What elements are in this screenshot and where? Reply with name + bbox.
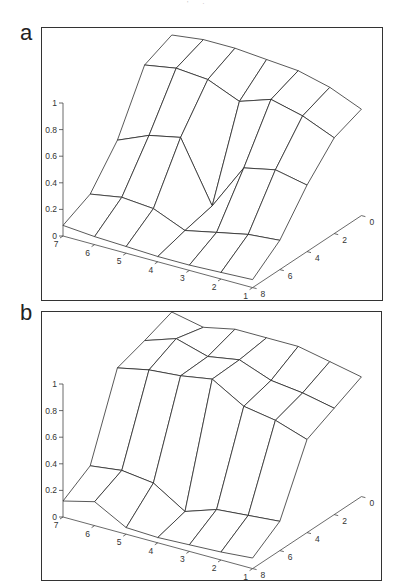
x-tick <box>123 534 126 536</box>
x-tick <box>218 560 221 562</box>
x-tick <box>250 569 253 571</box>
z-tick-label: 0.4 <box>45 178 57 188</box>
y-tick <box>253 569 257 570</box>
y-tick <box>361 497 365 498</box>
y-tick <box>307 533 311 534</box>
x-tick <box>92 526 95 528</box>
y-tick-label: 2 <box>342 516 347 526</box>
z-tick-label: 0.2 <box>45 204 57 214</box>
x-tick <box>186 551 189 553</box>
x-tick <box>218 279 221 281</box>
x-tick-label: 2 <box>212 282 217 292</box>
x-tick-label: 5 <box>117 256 122 266</box>
x-tick-label: 2 <box>212 563 217 573</box>
z-tick-label: 0.8 <box>45 406 57 416</box>
surface-plot-a: 00.20.40.60.81765432102468 <box>45 35 374 301</box>
y-tick <box>307 252 311 253</box>
y-tick-label: 8 <box>261 570 266 580</box>
x-tick-label: 6 <box>85 529 90 539</box>
x-tick-label: 1 <box>243 291 248 301</box>
x-tick-label: 6 <box>85 248 90 258</box>
y-tick-label: 4 <box>315 253 320 263</box>
x-tick-label: 3 <box>180 273 185 283</box>
y-tick <box>253 288 257 289</box>
y-tick-label: 6 <box>288 552 293 562</box>
y-tick-label: 2 <box>342 235 347 245</box>
x-tick-label: 4 <box>148 546 153 556</box>
x-tick <box>92 245 95 247</box>
z-tick-label: 0.2 <box>45 485 57 495</box>
y-tick <box>361 216 365 217</box>
y-tick-label: 6 <box>288 271 293 281</box>
z-tick-label: 0.4 <box>45 459 57 469</box>
x-tick <box>123 253 126 255</box>
y-tick-label: 0 <box>369 217 374 227</box>
x-tick-label: 3 <box>180 554 185 564</box>
y-tick <box>280 270 284 271</box>
z-tick-label: 0.8 <box>45 125 57 135</box>
surface-plots: 00.20.40.60.81765432102468 00.20.40.60.8… <box>0 0 400 585</box>
x-tick <box>155 262 158 264</box>
x-tick-label: 1 <box>243 572 248 582</box>
z-tick-label: 0.6 <box>45 432 57 442</box>
x-tick-label: 5 <box>117 537 122 547</box>
y-tick-label: 8 <box>261 289 266 299</box>
y-tick-label: 4 <box>315 534 320 544</box>
x-tick <box>250 288 253 290</box>
x-tick-label: 4 <box>148 265 153 275</box>
y-tick <box>334 515 338 516</box>
y-tick-label: 0 <box>369 498 374 508</box>
surface-plot-b: 00.20.40.60.81765432102468 <box>45 312 374 582</box>
y-tick <box>334 234 338 235</box>
y-tick <box>280 551 284 552</box>
z-tick-label: 0.6 <box>45 151 57 161</box>
z-tick-label: 1 <box>52 98 57 108</box>
z-tick-label: 1 <box>52 379 57 389</box>
x-tick <box>155 543 158 545</box>
x-tick-label: 7 <box>54 239 59 249</box>
x-tick-label: 7 <box>54 520 59 530</box>
x-tick <box>186 270 189 272</box>
